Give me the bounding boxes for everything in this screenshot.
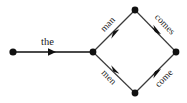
edge-line-men [93,52,135,93]
edge-man [93,10,135,52]
edge-label-the: the [41,37,54,48]
edge-line-man [93,10,135,52]
node-end[interactable] [173,49,180,56]
edge-the [13,48,93,56]
arrowhead-the [48,48,56,56]
edge-men [93,52,135,93]
diagram-canvas: the man men comes come [0,0,187,103]
node-junction[interactable] [90,49,97,56]
arrowhead-men-body [111,65,119,74]
node-bottom[interactable] [132,90,139,97]
node-top[interactable] [132,7,139,14]
node-start[interactable] [9,48,16,55]
